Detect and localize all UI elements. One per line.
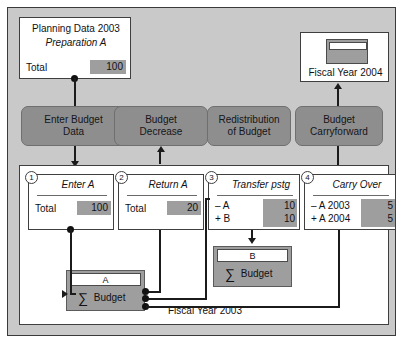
step-3-row-1-value: 10 (277, 213, 295, 224)
step-1-divider (37, 195, 107, 196)
process-button-budget-carryforward-label: Budget Carryforward (310, 114, 368, 138)
connector-step2-down (159, 230, 161, 293)
step-3-row-0-value: 10 (277, 200, 295, 211)
connector-step3-down (205, 198, 207, 300)
step-card-3: Transfer pstg – A 10 + B 10 (208, 174, 300, 230)
process-button-budget-carryforward[interactable]: Budget Carryforward (295, 106, 383, 146)
planning-data-total-value-text: 100 (90, 60, 126, 74)
step-1-number: 1 (25, 171, 38, 184)
sum-budget-b-text: Budget (241, 268, 273, 279)
bus-dot-top (142, 288, 149, 295)
arrow-down-sumB (248, 238, 256, 244)
step-3-title: Transfer pstg (223, 179, 299, 190)
diagram-canvas: Planning Data 2003 Preparation A Total 1… (7, 7, 396, 336)
step-3-divider (217, 195, 293, 196)
step-3-row-0-label: – A (215, 200, 229, 211)
fiscal-year-2004-label: Fiscal Year 2004 (301, 67, 390, 78)
process-button-redistribution-of-budget-label: Redistribution of Budget (218, 114, 279, 138)
step-2-number: 2 (115, 171, 128, 184)
step-1-row-0-value: 100 (77, 201, 111, 215)
process-button-enter-budget-data[interactable]: Enter Budget Data (21, 106, 126, 146)
step-4-row-1-label: + A 2004 (311, 213, 350, 224)
fiscal-year-2004-card: Fiscal Year 2004 (300, 32, 389, 82)
sum-budget-b-label: ∑ Budget (225, 268, 272, 279)
sum-budget-a-cap: A (70, 273, 141, 286)
process-button-redistribution-of-budget[interactable]: Redistribution of Budget (207, 106, 291, 146)
connector-step1-down (70, 229, 72, 295)
step-3-number: 3 (205, 171, 218, 184)
step-4-row-0-value: 5 (375, 200, 393, 211)
planning-data-card: Planning Data 2003 Preparation A Total 1… (19, 17, 131, 79)
connector-step2-to-decrease (159, 151, 161, 164)
process-button-budget-decrease-label: Budget Decrease (140, 114, 183, 138)
step-4-divider (313, 195, 389, 196)
step-3-row-1-label: + B (215, 213, 230, 224)
step-4-number: 4 (301, 171, 314, 184)
step-card-2: Return A Total 20 (118, 174, 204, 230)
step-4-title: Carry Over (319, 179, 395, 190)
step-1-row-0-label: Total (35, 203, 56, 214)
fy2004-icon-header (329, 42, 367, 50)
connector-planning-to-enter (74, 78, 76, 106)
step-1-row-0-value-text: 100 (77, 201, 111, 215)
sigma-icon-b: ∑ (225, 266, 235, 282)
process-button-enter-budget-data-label: Enter Budget Data (44, 114, 102, 138)
planning-data-subheading: Preparation A (20, 37, 132, 48)
arrow-up-fy2004 (334, 83, 342, 89)
bus-dot-middle (142, 295, 149, 302)
connector-step4-down (338, 230, 340, 308)
step-2-row-0-value: 20 (167, 201, 201, 215)
step-2-title: Return A (133, 179, 203, 190)
step-card-1: Enter A Total 100 (28, 174, 114, 230)
step-1-title: Enter A (43, 179, 113, 190)
fy2004-icon (326, 39, 368, 64)
sum-budget-b-cap-text: B (249, 251, 255, 261)
step-card-4: Carry Over – A 2003 5 + A 2004 5 (304, 174, 396, 230)
sigma-icon-a: ∑ (78, 290, 88, 306)
sum-budget-a-cap-text: A (102, 275, 108, 285)
sum-budget-a-label: ∑ Budget (78, 292, 125, 303)
arrow-right-sumA (62, 290, 68, 298)
step-4-row-1-value: 5 (375, 213, 393, 224)
connector-carryforward-down (337, 146, 339, 166)
step-4-row-0-label: – A 2003 (311, 200, 350, 211)
connector-step3-top (205, 198, 210, 200)
diagram-root: Planning Data 2003 Preparation A Total 1… (0, 0, 405, 344)
connector-step3-to-bus (146, 298, 207, 300)
step-2-divider (127, 195, 197, 196)
sum-budget-a-text: Budget (94, 292, 126, 303)
planning-data-total-value: 100 (90, 60, 126, 74)
connector-bus-to-step4 (146, 306, 340, 308)
planning-data-total-label: Total (26, 62, 47, 73)
process-button-budget-decrease-2[interactable]: Budget Decrease (114, 106, 208, 146)
planning-data-heading: Planning Data 2003 (20, 23, 132, 34)
connector-step1-to-sumA (70, 293, 76, 295)
connector-carryforward-to-fy2004 (337, 88, 339, 106)
step-2-row-0-value-text: 20 (167, 201, 201, 215)
sum-budget-b-cap: B (217, 249, 288, 262)
step-2-row-0-label: Total (125, 203, 146, 214)
